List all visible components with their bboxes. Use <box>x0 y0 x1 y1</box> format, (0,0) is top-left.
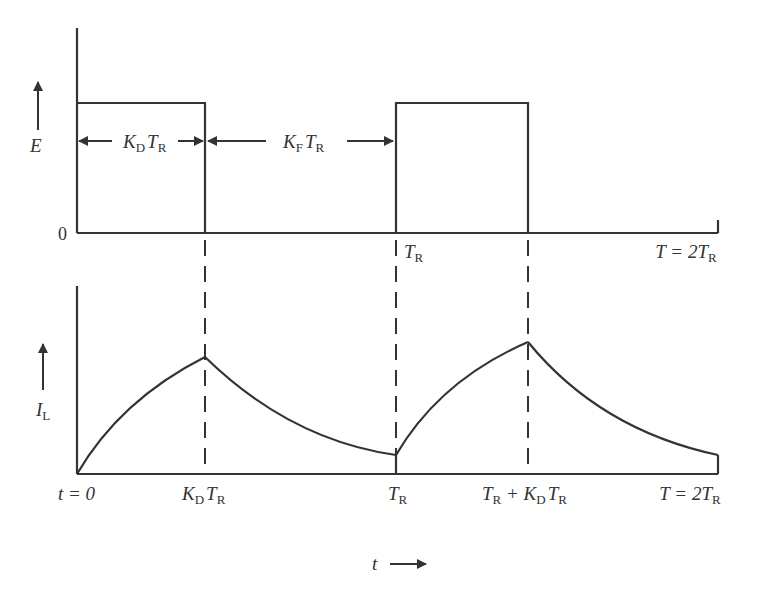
t-zero-label: t = 0 <box>58 483 96 504</box>
period-label-top: T = 2TR <box>655 241 717 265</box>
kd-tr-span-label: KDTR <box>122 131 167 155</box>
current-fall-1 <box>205 357 396 474</box>
kd-tr-label-bottom: KDTR <box>181 483 226 507</box>
tr-label-bottom: TR <box>388 483 408 507</box>
voltage-axis-label: E <box>29 135 42 156</box>
chopper-waveform-diagram: E 0 KDTR KFTR TR T = 2TR <box>0 0 781 598</box>
voltage-panel: E 0 KDTR KFTR TR T = 2TR <box>29 28 718 265</box>
current-rise-1 <box>77 357 205 474</box>
period-label-bottom: T = 2TR <box>659 483 721 507</box>
voltage-pulse-2 <box>396 103 528 233</box>
time-axis-label: t <box>372 553 378 574</box>
current-fall-2 <box>528 342 718 455</box>
tr-plus-kd-tr-label: TR + KDTR <box>482 483 567 507</box>
current-rise-2 <box>396 342 528 455</box>
kf-tr-span-label: KFTR <box>282 131 325 155</box>
current-axis-label: IL <box>35 399 50 423</box>
current-panel: IL t = 0 KDTR TR TR + KDTR T = 2TR <box>35 286 721 507</box>
zero-label: 0 <box>58 224 67 244</box>
voltage-pulse-1 <box>77 103 205 233</box>
tr-label-top: TR <box>404 241 424 265</box>
